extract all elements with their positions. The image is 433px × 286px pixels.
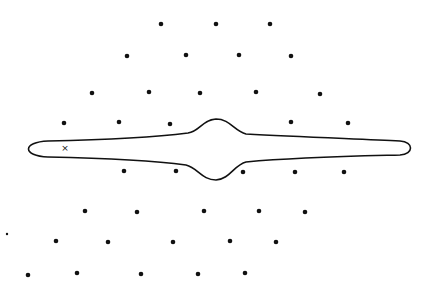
lattice-dot <box>174 169 179 174</box>
lattice-dot <box>274 240 279 245</box>
lattice-dot <box>198 91 203 96</box>
lattice-dot <box>289 54 294 59</box>
lattice-dot <box>303 210 308 215</box>
lattice-dot <box>318 92 323 97</box>
lattice-dot <box>243 271 248 276</box>
lattice-dot <box>293 170 298 175</box>
lattice-dot <box>241 170 246 175</box>
lattice-dot <box>125 54 130 59</box>
lattice-dot <box>237 53 242 58</box>
lattice-dot <box>106 240 111 245</box>
x-marker: × <box>61 143 69 153</box>
lattice-dot <box>135 210 140 215</box>
lattice-figure: × <box>0 0 433 286</box>
lattice-dot <box>139 272 144 277</box>
lattice-dot <box>184 53 189 58</box>
lattice-dot <box>346 121 351 126</box>
lattice-dot <box>268 22 273 27</box>
lattice-dot <box>90 91 95 96</box>
lattice-dot <box>122 169 127 174</box>
lattice-dot <box>83 209 88 214</box>
lattice-dot <box>289 120 294 125</box>
lattice-dot <box>54 239 59 244</box>
small-dot <box>6 233 8 235</box>
lattice-dot <box>171 240 176 245</box>
lattice-dot <box>254 90 259 95</box>
lattice-dot <box>228 239 233 244</box>
lattice-dot <box>26 273 31 278</box>
lattice-dot <box>196 272 201 277</box>
lattice-dot <box>159 22 164 27</box>
lattice-dot <box>202 209 207 214</box>
lattice-dot <box>117 120 122 125</box>
lattice-dot <box>75 271 80 276</box>
lattice-dot <box>62 121 67 126</box>
lattice-dot <box>214 22 219 27</box>
lattice-dot <box>342 170 347 175</box>
lattice-dot <box>147 90 152 95</box>
diagram-canvas: × <box>0 0 433 286</box>
lattice-dot <box>257 209 262 214</box>
lattice-dot <box>168 122 173 127</box>
